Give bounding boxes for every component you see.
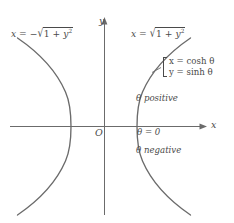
x-axis-arrowhead-icon xyxy=(200,124,208,130)
theta-positive-label: θ positive xyxy=(136,94,178,103)
theta-negative-label: θ negative xyxy=(136,146,181,155)
brace-icon xyxy=(163,57,167,77)
hyperbola-figure: x = −√1 + y2 x = √1 + y2 y x O θ positiv… xyxy=(0,0,234,223)
left-branch-equation-label: x = −√1 + y2 xyxy=(11,26,73,38)
parametric-equations-group: x = cosh θ y = sinh θ xyxy=(163,57,214,77)
right-branch-equation-label: x = √1 + y2 xyxy=(131,26,185,38)
parametric-rows: x = cosh θ y = sinh θ xyxy=(169,57,214,77)
parametric-x-equation: x = cosh θ xyxy=(169,57,214,67)
origin-label: O xyxy=(95,128,103,138)
parametric-y-equation: y = sinh θ xyxy=(169,68,214,78)
y-axis-label: y xyxy=(99,16,104,26)
y-axis xyxy=(102,17,108,215)
theta-zero-label: θ = 0 xyxy=(137,128,160,137)
x-axis xyxy=(10,124,207,130)
x-axis-label: x xyxy=(211,120,216,130)
